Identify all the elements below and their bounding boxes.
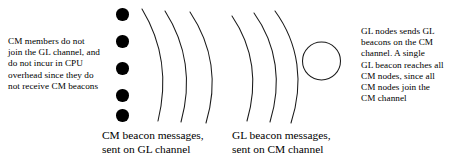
cm-node-column xyxy=(116,6,132,124)
gl-beacon-arc-group xyxy=(232,11,298,123)
cm-node-2 xyxy=(116,35,129,48)
cm-arc-1 xyxy=(142,9,163,121)
right-annotation-text: GL nodes sends GL beacons on the CM chan… xyxy=(361,26,450,104)
cm-node-3 xyxy=(116,62,129,75)
gl-arc-2 xyxy=(254,13,276,122)
cm-beacon-caption: CM beacon messages, sent on GL channel xyxy=(102,129,234,156)
gl-beacon-caption: GL beacon messages, sent on CM channel xyxy=(232,129,364,156)
cm-node-5 xyxy=(116,109,129,122)
beacon-propagation-figure: CM members do not join the GL channel, a… xyxy=(0,0,450,166)
cm-beacon-arc-group xyxy=(142,9,212,123)
gl-arc-1 xyxy=(232,16,253,121)
cm-arc-3 xyxy=(190,12,212,123)
gl-arc-3 xyxy=(275,11,298,123)
cm-node-1 xyxy=(116,8,129,21)
cm-arc-2 xyxy=(165,11,186,122)
left-annotation-text: CM members do not join the GL channel, a… xyxy=(8,36,128,92)
cm-node-4 xyxy=(116,89,129,102)
gl-node-circle xyxy=(303,42,341,80)
